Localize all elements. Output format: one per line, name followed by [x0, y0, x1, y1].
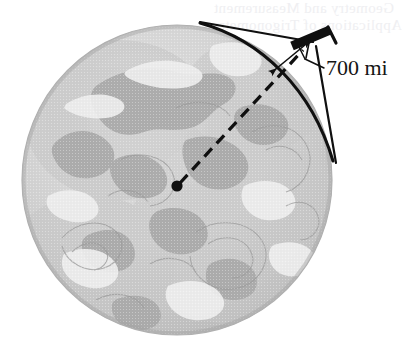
satellite-icon	[292, 27, 336, 58]
label-leader-line	[305, 59, 324, 68]
altitude-label: 700 mi	[326, 56, 388, 80]
earth-center-point	[171, 180, 182, 191]
satellite-panel-bar	[292, 30, 330, 46]
satellite-orbit-figure: Geometry and Measurement Applications of…	[0, 0, 408, 348]
figure-canvas	[0, 0, 408, 348]
globe-halftone-screen	[0, 0, 408, 348]
label-leader-line-2	[299, 47, 305, 59]
earth-globe	[0, 0, 408, 348]
globe-surface-features	[0, 0, 408, 348]
